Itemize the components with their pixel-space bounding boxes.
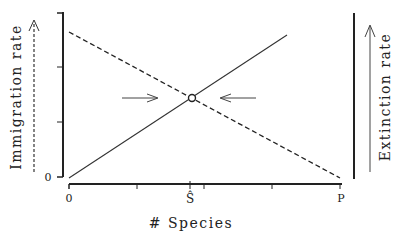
- equilibrium-label: Ŝ: [186, 190, 194, 206]
- immigration-curve: [69, 32, 340, 178]
- x-axis-label: # Species: [149, 215, 233, 231]
- up-arrow-icon: [365, 25, 375, 172]
- y-left-label: Immigration rate: [8, 24, 24, 170]
- island-biogeography-diagram: 0 Immigration rate 0 Ŝ P # Species Extin…: [0, 0, 402, 240]
- extinction-curve: [69, 35, 287, 178]
- equilibrium-marker: [189, 95, 196, 102]
- x-axis: [69, 181, 342, 189]
- right-arrow-icon: [122, 94, 158, 102]
- x-origin-label: 0: [66, 192, 73, 205]
- y-origin-label: 0: [45, 171, 52, 184]
- left-arrow-icon: [220, 94, 256, 102]
- left-y-axis: [57, 12, 63, 177]
- y-right-label: Extinction rate: [377, 33, 393, 162]
- dashed-up-arrow-icon: [29, 20, 39, 172]
- species-pool-label: P: [337, 192, 345, 205]
